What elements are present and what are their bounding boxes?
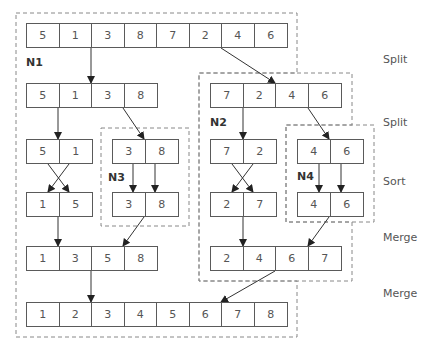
array-cell: 4 (298, 193, 331, 216)
node-label-n1: N1 (26, 56, 43, 69)
array-cell: 7 (222, 303, 255, 326)
array-input: 5 1 3 8 7 2 4 6 (26, 23, 288, 48)
array-cell: 1 (27, 303, 60, 326)
array-split-right: 7 2 4 6 (210, 83, 342, 108)
array-cell: 7 (211, 140, 244, 163)
array-cell: 2 (190, 24, 223, 47)
array-cell: 6 (190, 303, 223, 326)
array-cell: 2 (60, 303, 93, 326)
array-merged-left: 1 3 5 8 (26, 246, 158, 271)
array-cell: 4 (298, 140, 331, 163)
array-cell: 8 (146, 193, 179, 216)
array-cell: 6 (331, 140, 364, 163)
array-split-left: 5 1 3 8 (26, 83, 158, 108)
merge-sort-diagram: 5 1 3 8 7 2 4 6 5 1 3 8 7 2 4 6 5 1 3 8 … (0, 0, 429, 350)
stage-label-sort: Sort (383, 175, 406, 188)
array-merged-right: 2 4 6 7 (210, 246, 342, 271)
stage-label-merge-2: Merge (383, 287, 417, 300)
node-label-n3: N3 (108, 171, 125, 184)
array-cell: 6 (276, 247, 309, 270)
array-pair-rl: 7 2 (210, 139, 277, 164)
array-cell: 5 (27, 140, 60, 163)
array-cell: 8 (125, 24, 158, 47)
array-cell: 1 (60, 84, 93, 107)
stage-label-split-2: Split (383, 116, 407, 129)
node-label-n4: N4 (297, 170, 314, 183)
array-cell: 5 (60, 193, 93, 216)
array-cell: 5 (27, 24, 60, 47)
array-cell: 3 (60, 247, 93, 270)
connectors-layer (0, 0, 429, 350)
array-cell: 1 (27, 193, 60, 216)
array-cell: 6 (255, 24, 288, 47)
n1-boundary (16, 13, 297, 337)
array-cell: 6 (309, 84, 342, 107)
array-cell: 8 (125, 84, 158, 107)
array-cell: 5 (157, 303, 190, 326)
stage-label-split-1: Split (383, 53, 407, 66)
array-cell: 7 (309, 247, 342, 270)
array-cell: 4 (125, 303, 158, 326)
array-cell: 8 (125, 247, 158, 270)
array-sorted-ll: 1 5 (26, 192, 93, 217)
stage-label-merge-1: Merge (383, 231, 417, 244)
array-sorted-lr: 3 8 (112, 192, 179, 217)
array-cell: 4 (222, 24, 255, 47)
array-cell: 1 (60, 24, 93, 47)
array-cell: 3 (92, 24, 125, 47)
array-pair-lr: 3 8 (112, 139, 179, 164)
array-cell: 3 (113, 193, 146, 216)
array-cell: 3 (113, 140, 146, 163)
array-cell: 6 (331, 193, 364, 216)
array-sorted-rl: 2 7 (210, 192, 277, 217)
array-cell: 2 (244, 84, 277, 107)
array-cell: 8 (255, 303, 288, 326)
array-cell: 4 (244, 247, 277, 270)
array-pair-ll: 5 1 (26, 139, 93, 164)
array-cell: 7 (211, 84, 244, 107)
array-cell: 3 (92, 303, 125, 326)
array-output: 1 2 3 4 5 6 7 8 (26, 302, 288, 327)
array-cell: 2 (211, 193, 244, 216)
array-cell: 1 (60, 140, 93, 163)
array-cell: 3 (92, 84, 125, 107)
array-cell: 5 (92, 247, 125, 270)
array-cell: 2 (211, 247, 244, 270)
array-cell: 8 (146, 140, 179, 163)
array-cell: 5 (27, 84, 60, 107)
array-cell: 4 (276, 84, 309, 107)
array-cell: 7 (157, 24, 190, 47)
array-cell: 1 (27, 247, 60, 270)
array-cell: 2 (244, 140, 277, 163)
array-sorted-rr: 4 6 (297, 192, 364, 217)
array-cell: 7 (244, 193, 277, 216)
node-label-n2: N2 (210, 116, 227, 129)
array-pair-rr: 4 6 (297, 139, 364, 164)
